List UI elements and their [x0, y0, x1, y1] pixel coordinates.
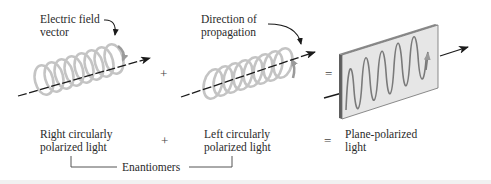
caption-line: polarized light	[40, 141, 113, 154]
callout-electric-field-vector: Electric field vector	[40, 13, 100, 39]
callout-line: Electric field	[40, 13, 100, 26]
callout-direction-of-propagation: Direction of propagation	[201, 13, 257, 39]
equals-operator-top: =	[325, 66, 332, 82]
caption-line: Left circularly	[204, 128, 271, 141]
caption-plane-polarized: Plane-polarized light	[345, 128, 417, 154]
callout-line: propagation	[201, 26, 257, 39]
equals-operator-bottom: =	[324, 133, 331, 149]
caption-line: Plane-polarized	[345, 128, 417, 141]
callout-line: vector	[40, 26, 100, 39]
caption-right-circular: Right circularly polarized light	[40, 128, 113, 154]
plus-operator-bottom: +	[161, 133, 168, 149]
caption-line: Right circularly	[40, 128, 113, 141]
callout-arrow-2	[268, 24, 301, 44]
enantiomers-label: Enantiomers	[122, 161, 180, 174]
callout-arrow-1	[104, 20, 115, 35]
plus-operator-top: +	[160, 66, 167, 82]
caption-left-circular: Left circularly polarized light	[204, 128, 271, 154]
caption-line: light	[345, 141, 417, 154]
left-circular-helix	[201, 46, 296, 100]
caption-line: polarized light	[204, 141, 271, 154]
bottom-border	[0, 180, 491, 184]
plane-polarized-plate	[324, 24, 468, 119]
callout-line: Direction of	[201, 13, 257, 26]
